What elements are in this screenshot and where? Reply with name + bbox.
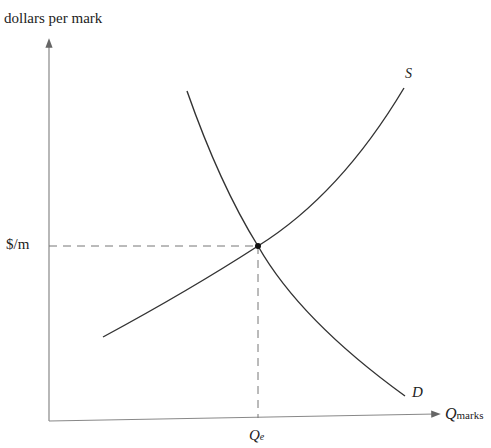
equilibrium-point — [255, 243, 261, 249]
supply-demand-diagram — [0, 0, 491, 448]
x-axis — [49, 414, 436, 421]
quantity-label-main: Q — [249, 427, 260, 443]
demand-label: D — [412, 384, 423, 401]
supply-curve — [103, 88, 404, 337]
supply-label: S — [405, 66, 412, 82]
price-label: $/m — [6, 236, 29, 253]
quantity-label-sub: e — [260, 431, 264, 442]
x-axis-label: Qmarks — [445, 405, 483, 423]
x-axis-label-main: Q — [445, 405, 457, 422]
quantity-label: Qe — [249, 427, 264, 444]
x-axis-label-sub: marks — [457, 409, 484, 421]
y-axis-label: dollars per mark — [4, 10, 102, 27]
